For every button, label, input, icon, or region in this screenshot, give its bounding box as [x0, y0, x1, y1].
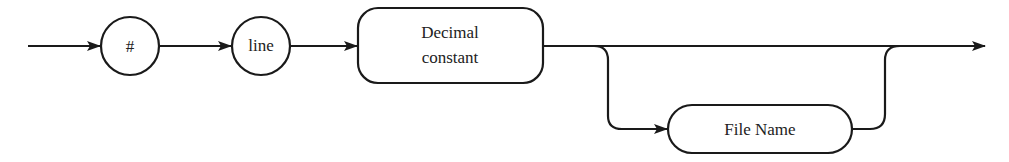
merge-from-filename [852, 46, 900, 129]
node-file-name-label: File Name [724, 120, 795, 139]
node-decimal-label-line2: constant [422, 48, 479, 67]
node-line: line [232, 17, 290, 75]
node-file-name: File Name [668, 105, 852, 153]
syntax-diagram: # line Decimal constant File Name [0, 0, 1009, 162]
node-decimal-constant: Decimal constant [358, 8, 543, 83]
node-hash: # [101, 17, 159, 75]
node-hash-label: # [126, 37, 135, 56]
node-line-label: line [248, 36, 274, 55]
node-decimal-label-line1: Decimal [421, 23, 479, 42]
branch-to-filename [594, 46, 667, 129]
